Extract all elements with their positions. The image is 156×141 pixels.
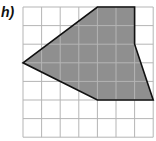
grid-polygon-figure <box>0 0 156 141</box>
shaded-polygon <box>23 7 153 100</box>
